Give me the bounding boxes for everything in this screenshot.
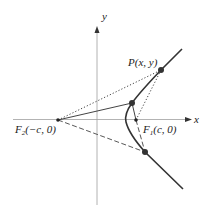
point-upper bbox=[129, 100, 135, 106]
focus-f1-label: F1(c, 0) bbox=[142, 123, 177, 137]
focus-f1 bbox=[134, 118, 138, 122]
diagram-canvas: y x P(x, y) F1(c, 0) F2(−c, 0) bbox=[0, 0, 206, 214]
y-axis-arrow-icon bbox=[95, 26, 100, 33]
y-axis-label: y bbox=[101, 10, 107, 22]
focus-f2-label: F2(−c, 0) bbox=[14, 123, 56, 137]
point-lower bbox=[142, 149, 148, 155]
x-axis-label: x bbox=[193, 113, 199, 125]
focus-f2 bbox=[56, 118, 60, 122]
dotted-line-f1-p bbox=[136, 70, 161, 120]
point-p-label: P(x, y) bbox=[127, 56, 158, 69]
hyperbola-curve bbox=[126, 49, 183, 189]
hyperbola-diagram: y x P(x, y) F1(c, 0) F2(−c, 0) bbox=[0, 0, 206, 214]
point-p bbox=[158, 67, 164, 73]
x-axis-arrow-icon bbox=[185, 117, 192, 122]
dotted-line-f2-p bbox=[58, 70, 161, 120]
solid-line-f2-q bbox=[58, 103, 132, 120]
